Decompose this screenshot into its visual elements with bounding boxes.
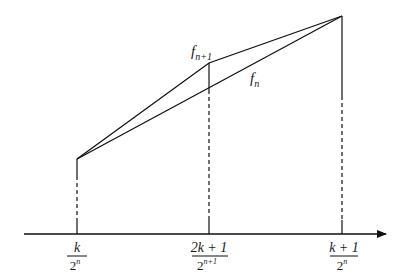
svg-text:2n+1: 2n+1 (197, 257, 217, 273)
tick-label-k-over-2n: k 2n (67, 240, 87, 273)
svg-text:2n: 2n (70, 257, 81, 273)
label-f-n-plus-1: fn+1 (191, 43, 212, 62)
diagram-canvas: fn+1 fn k 2n 2k + 1 2n+1 k + 1 2n (0, 0, 406, 273)
tick-label-2k-plus-1-over-2n-plus-1: 2k + 1 2n+1 (191, 240, 228, 273)
svg-text:k + 1: k + 1 (329, 240, 359, 255)
svg-text:2n: 2n (337, 257, 348, 273)
label-f-n: fn (250, 70, 259, 89)
tick-label-k-plus-1-over-2n: k + 1 2n (329, 240, 359, 273)
curve-f-n (77, 16, 342, 159)
svg-text:k: k (74, 240, 81, 255)
svg-text:2k + 1: 2k + 1 (191, 240, 228, 255)
